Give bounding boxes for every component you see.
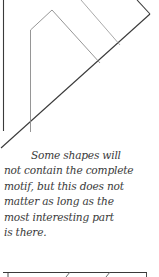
caption-line: most interesting part xyxy=(4,210,159,225)
top-right-edge-line xyxy=(137,0,150,14)
motif-outline xyxy=(31,10,101,132)
caption-line: is there. xyxy=(4,225,159,240)
caption-line: matter as long as the xyxy=(4,194,159,209)
diagonal-edge-line xyxy=(1,14,150,148)
caption-line: not contain the complete xyxy=(4,163,159,178)
motif-stripe-line xyxy=(81,0,120,45)
caption-line: Some shapes will xyxy=(4,148,159,163)
caption-line: motif, but this does not xyxy=(4,179,159,194)
caption: Some shapes will not contain the complet… xyxy=(4,148,159,240)
